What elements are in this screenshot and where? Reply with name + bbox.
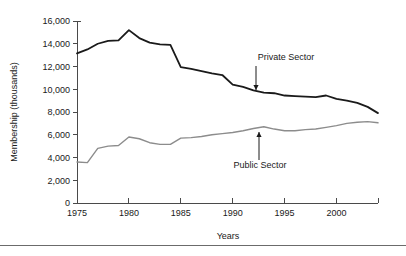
y-tick-label: 6,000 xyxy=(47,130,70,140)
public-sector-annotation-label: Public Sector xyxy=(233,160,286,170)
x-tick-label: 1975 xyxy=(67,208,87,218)
x-tick-label: 1985 xyxy=(171,208,191,218)
private-sector-annotation: Private Sector xyxy=(253,52,314,90)
y-axis-ticks: 02,0004,0006,0008,00010,00012,00014,0001… xyxy=(42,16,77,208)
series-line-private-sector xyxy=(77,30,378,113)
private-sector-annotation-label: Private Sector xyxy=(258,52,315,62)
y-tick-label: 14,000 xyxy=(42,39,70,49)
y-tick-label: 2,000 xyxy=(47,176,70,186)
chart-axes xyxy=(77,21,378,203)
y-tick-label: 16,000 xyxy=(42,16,70,26)
private-sector-annotation-arrowhead xyxy=(253,85,258,90)
y-axis-title: Membership (thousands) xyxy=(9,62,19,162)
x-tick-label: 1980 xyxy=(119,208,139,218)
y-tick-label: 0 xyxy=(65,198,70,208)
x-tick-label: 1990 xyxy=(223,208,243,218)
membership-line-chart: 02,0004,0006,0008,00010,00012,00014,0001… xyxy=(0,0,406,256)
chart-annotations: Private SectorPublic Sector xyxy=(233,52,314,170)
series-line-public-sector xyxy=(77,122,378,163)
chart-figure: 02,0004,0006,0008,00010,00012,00014,0001… xyxy=(0,0,406,256)
x-tick-label: 2000 xyxy=(326,208,346,218)
x-axis-title: Years xyxy=(217,231,240,241)
public-sector-annotation-arrowhead xyxy=(256,132,261,137)
chart-series xyxy=(77,30,378,163)
x-axis-ticks: 197519801985199019952000 xyxy=(67,198,347,218)
y-tick-label: 8,000 xyxy=(47,107,70,117)
y-tick-label: 4,000 xyxy=(47,153,70,163)
public-sector-annotation: Public Sector xyxy=(233,132,286,170)
y-tick-label: 10,000 xyxy=(42,85,70,95)
x-tick-label: 1995 xyxy=(275,208,295,218)
y-tick-label: 12,000 xyxy=(42,62,70,72)
